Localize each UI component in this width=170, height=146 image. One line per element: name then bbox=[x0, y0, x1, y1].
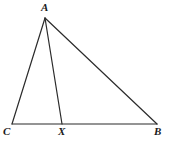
vertex-label-a: A bbox=[41, 2, 48, 13]
triangle-diagram bbox=[0, 0, 170, 146]
geometry-figure: A C X B bbox=[0, 0, 170, 146]
segment-AX bbox=[45, 18, 62, 124]
vertex-label-x: X bbox=[58, 126, 65, 137]
vertex-label-c: C bbox=[3, 126, 10, 137]
vertex-label-b: B bbox=[154, 126, 161, 137]
segment-AB bbox=[45, 18, 157, 124]
segment-CA bbox=[12, 18, 45, 124]
